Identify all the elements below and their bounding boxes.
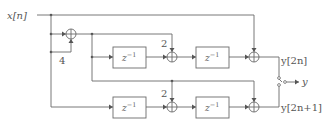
- arrow-icon: [192, 55, 196, 60]
- output-odd-label: y[2n+1]: [280, 102, 322, 113]
- arrow-icon: [109, 105, 113, 110]
- arrow-icon: [295, 80, 299, 85]
- arrow-icon: [192, 105, 196, 110]
- arrow-icon: [163, 105, 167, 110]
- arrow-icon: [163, 55, 167, 60]
- adder-input: [66, 29, 76, 39]
- arrow-icon: [252, 98, 257, 102]
- adder-top-right: [249, 52, 259, 62]
- adder-bottom-right: [249, 102, 259, 112]
- line: [51, 39, 71, 52]
- delay-block-top-right: z−1: [196, 47, 229, 68]
- arrow-icon: [69, 39, 74, 43]
- arrow-icon: [170, 98, 175, 102]
- arrow-icon: [252, 48, 257, 52]
- input-label: x[n]: [7, 10, 27, 21]
- line: [259, 57, 279, 77]
- arrow-icon: [245, 55, 249, 60]
- output-even-label: y[2n]: [280, 55, 307, 66]
- delay-block-top-left: z−1: [113, 47, 146, 68]
- commutator-switch: [278, 77, 287, 87]
- adder-top-middle: [167, 52, 177, 62]
- block-diagram: x[n] 4 2 z−1 z−1: [0, 0, 328, 127]
- arrow-icon: [170, 48, 175, 52]
- delay-block-bottom-left: z−1: [113, 97, 146, 118]
- gain-2-top-label: 2: [161, 38, 167, 49]
- delay-block-bottom-right: z−1: [196, 97, 229, 118]
- arrow-icon: [245, 105, 249, 110]
- adder-bottom-middle: [167, 102, 177, 112]
- arrow-icon: [62, 32, 66, 37]
- output-label: y: [301, 76, 308, 87]
- gain-2-bottom-label: 2: [161, 88, 167, 99]
- gain-4-label: 4: [59, 55, 65, 66]
- line: [259, 86, 279, 107]
- arrow-icon: [109, 55, 113, 60]
